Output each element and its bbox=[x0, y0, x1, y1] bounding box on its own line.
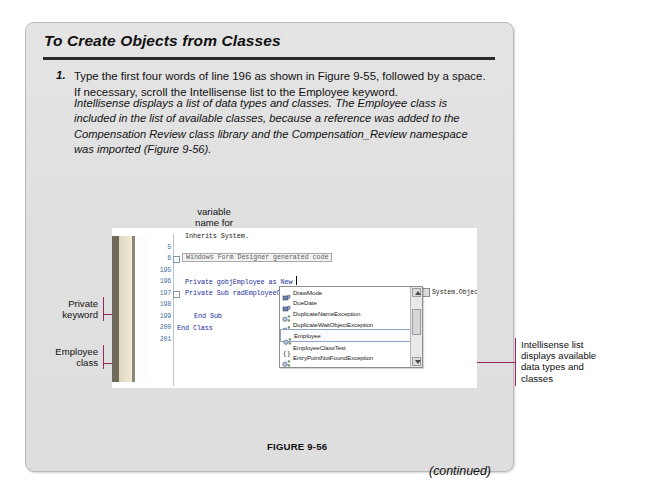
intellisense-item[interactable]: DuplicateNameException bbox=[280, 308, 411, 319]
class-icon bbox=[282, 309, 291, 317]
intellisense-item[interactable]: Employee bbox=[280, 329, 411, 342]
line-number: 200 bbox=[149, 324, 171, 331]
tooltip-text: System.Objec bbox=[432, 289, 477, 296]
class-icon bbox=[282, 320, 291, 328]
intellisense-item[interactable]: DuplicateWaitObjectException bbox=[280, 319, 411, 330]
editor-screenshot: 5 6 195 196 197 198 199 200 201 Inherits… bbox=[112, 228, 477, 388]
line-number: 6 bbox=[149, 255, 171, 262]
callout-private-keyword: Private keyword bbox=[32, 298, 98, 320]
line-number: 198 bbox=[149, 301, 171, 308]
parameter-tooltip: System.Objec bbox=[421, 288, 477, 297]
continued-label: (continued) bbox=[429, 464, 491, 478]
step-number: 1. bbox=[56, 69, 73, 81]
ide-panel-white bbox=[135, 236, 149, 382]
scrollbar-thumb[interactable] bbox=[412, 309, 421, 335]
callout-employee-class: Employee class bbox=[32, 346, 98, 368]
intellisense-item[interactable]: DueDate bbox=[280, 298, 411, 309]
instruction-card: To Create Objects from Classes 1. Type t… bbox=[25, 22, 514, 472]
callout-line: classes bbox=[521, 373, 626, 384]
callout-line: Intellisense list bbox=[521, 339, 626, 350]
code-line: Private gobjEmployee as New bbox=[185, 278, 296, 286]
callout-bracket-employee bbox=[103, 345, 104, 369]
code-line: Private Sub radEmployeeOb bbox=[185, 289, 284, 297]
line-number: 199 bbox=[149, 313, 171, 320]
note-paragraph: Intellisense displays a list of data typ… bbox=[74, 96, 479, 158]
intellisense-items[interactable]: DrawModeDueDateDuplicateNameExceptionDup… bbox=[280, 287, 411, 367]
code-line: End Class bbox=[177, 324, 213, 332]
callout-intellisense: Intellisense list displays available dat… bbox=[521, 339, 626, 384]
collapse-toggle-icon[interactable]: - bbox=[173, 291, 180, 298]
ide-panel-toolbox bbox=[119, 236, 132, 382]
callout-line: class bbox=[32, 357, 98, 368]
intellisense-item-label: DuplicateNameException bbox=[293, 310, 360, 317]
class-icon bbox=[282, 354, 291, 362]
callout-line: name for bbox=[176, 217, 252, 228]
callout-line: Private bbox=[32, 298, 98, 309]
enum-member-icon bbox=[282, 299, 291, 307]
callout-line: data types and bbox=[521, 361, 626, 372]
line-number: 5 bbox=[149, 244, 171, 251]
page-root: To Create Objects from Classes 1. Type t… bbox=[0, 0, 646, 489]
callout-bracket-private bbox=[103, 297, 104, 321]
intellisense-item-label: EmployeeClassTest bbox=[293, 344, 346, 351]
title-divider bbox=[43, 57, 495, 60]
intellisense-scrollbar[interactable] bbox=[410, 287, 422, 367]
code-line: Inherits System. bbox=[185, 232, 249, 240]
line-number: 201 bbox=[149, 336, 171, 343]
collapsed-region-label[interactable]: Windows Form Designer generated code bbox=[182, 253, 332, 262]
intellisense-item[interactable]: DrawMode bbox=[280, 287, 411, 298]
text-caret bbox=[296, 276, 297, 285]
line-number: 197 bbox=[149, 290, 171, 297]
figure-9-56: variable name for Employee object New ke… bbox=[26, 206, 513, 436]
scroll-down-icon[interactable] bbox=[412, 357, 421, 366]
class-icon bbox=[282, 364, 291, 367]
intellisense-item[interactable]: {}EmployeeClassTest bbox=[280, 342, 411, 353]
intellisense-item-label: EntryPointNotFoundException bbox=[293, 354, 373, 361]
intellisense-item-label: EntryWrittenEventArgs bbox=[293, 365, 353, 367]
figure-caption: FIGURE 9-56 bbox=[267, 441, 327, 452]
code-editor[interactable]: 5 6 195 196 197 198 199 200 201 Inherits… bbox=[149, 228, 477, 388]
intellisense-item-label: DuplicateWaitObjectException bbox=[293, 321, 373, 328]
collapse-toggle-icon[interactable]: - bbox=[173, 256, 180, 263]
callout-line: keyword bbox=[32, 309, 98, 320]
namespace-icon: {} bbox=[282, 343, 291, 351]
callout-line: displays available bbox=[521, 350, 626, 361]
intellisense-list[interactable]: DrawModeDueDateDuplicateNameExceptionDup… bbox=[279, 286, 423, 368]
page-title: To Create Objects from Classes bbox=[44, 32, 281, 50]
ide-panel-dark bbox=[112, 236, 119, 382]
callout-line: Employee bbox=[32, 346, 98, 357]
screenshot-figure: 5 6 195 196 197 198 199 200 201 Inherits… bbox=[112, 228, 477, 388]
intellisense-item[interactable]: EntryPointNotFoundException bbox=[280, 353, 411, 364]
intellisense-item-label: Employee bbox=[294, 332, 321, 339]
code-line: End Sub bbox=[194, 312, 222, 320]
intellisense-item-label: DueDate bbox=[293, 299, 317, 306]
enum-member-icon bbox=[282, 288, 291, 296]
scroll-up-icon[interactable] bbox=[412, 288, 421, 297]
callout-line: variable bbox=[176, 206, 252, 217]
intellisense-item[interactable]: EntryWrittenEventArgs bbox=[280, 363, 411, 367]
line-number: 195 bbox=[149, 267, 171, 274]
line-number: 196 bbox=[149, 278, 171, 285]
class-icon bbox=[283, 332, 292, 340]
intellisense-item-label: DrawMode bbox=[293, 289, 322, 296]
